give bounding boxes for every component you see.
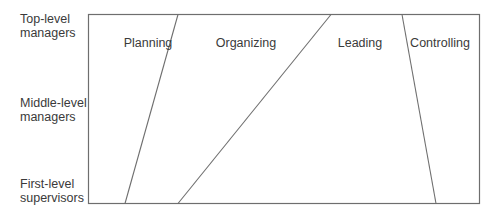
function-label-organizing: Organizing [216,36,276,50]
level-label-middle: Middle-level managers [20,96,87,124]
level-label-first: First-level supervisors [20,177,84,205]
function-label-planning: Planning [124,36,173,50]
function-label-controlling: Controlling [410,36,470,50]
level-label-top-line1: Top-level [20,12,76,26]
level-label-top-line2: managers [20,26,76,40]
level-label-first-line2: supervisors [20,191,84,205]
function-label-leading: Leading [338,36,383,50]
level-label-top: Top-level managers [20,12,76,40]
management-functions-diagram: Top-level managers Middle-level managers… [0,0,497,215]
level-label-middle-line2: managers [20,110,87,124]
level-label-middle-line1: Middle-level [20,96,87,110]
level-label-first-line1: First-level [20,177,84,191]
